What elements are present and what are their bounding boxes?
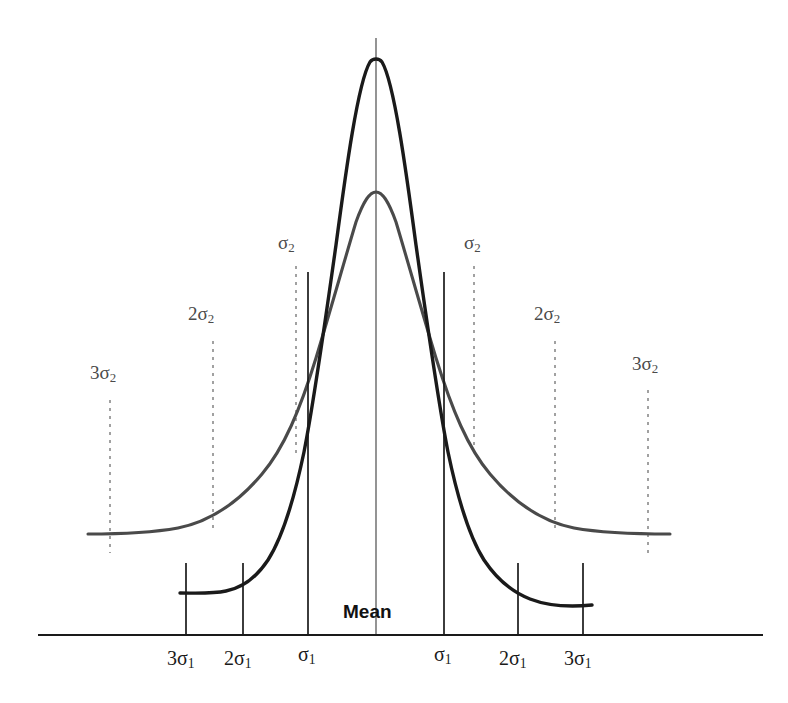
axis-label-text: 3σ [564,647,585,669]
distribution-plot-svg [0,0,788,703]
sigma2-label-sigma2-left: σ2 [278,233,295,255]
axis-label-3sigma1-right: 3σ1 [564,648,592,671]
sigma2-label-2sigma2-left: 2σ2 [188,304,214,326]
narrow-distribution-curve [180,59,592,606]
sigma2-label-2sigma2-right: 2σ2 [534,304,560,326]
axis-label-text: 3σ [167,647,188,669]
axis-label-2sigma1-right: 2σ1 [499,648,527,671]
axis-label-text: 2σ [224,647,245,669]
axis-label-subscript: 1 [309,652,316,667]
axis-label-text: σ [298,643,309,665]
sigma2-label-text: 3σ [90,362,110,383]
sigma2-label-subscript: 2 [110,370,116,385]
sigma2-label-text: 3σ [632,353,652,374]
axis-label-text: 2σ [499,647,520,669]
axis-label-3sigma1-left: 3σ1 [167,648,195,671]
sigma2-label-text: σ [278,232,288,253]
sigma2-label-3sigma2-left: 3σ2 [90,363,116,385]
axis-label-sigma1-right: σ1 [434,644,452,667]
axis-label-sigma1-left: σ1 [298,644,316,667]
axis-label-text: σ [434,643,445,665]
axis-label-2sigma1-left: 2σ1 [224,648,252,671]
sigma2-label-subscript: 2 [652,361,658,376]
sigma2-label-text: 2σ [534,303,554,324]
mean-label: Mean [343,602,392,621]
sigma2-label-text: 2σ [188,303,208,324]
normal-distribution-figure: Mean 3σ2 2σ2 σ2 σ2 2σ2 3σ2 3σ1 2σ1 σ1 σ1… [0,0,788,703]
sigma2-label-subscript: 2 [554,311,560,326]
sigma2-label-text: σ [464,232,474,253]
axis-label-subscript: 1 [585,656,592,671]
sigma2-label-subscript: 2 [208,311,214,326]
sigma2-label-subscript: 2 [474,240,480,255]
sigma1-marker-group [186,272,583,635]
sigma2-label-3sigma2-right: 3σ2 [632,354,658,376]
wide-distribution-curve [88,192,670,534]
axis-label-subscript: 1 [188,656,195,671]
axis-label-subscript: 1 [245,656,252,671]
sigma2-label-subscript: 2 [288,240,294,255]
axis-label-subscript: 1 [520,656,527,671]
axis-label-subscript: 1 [445,652,452,667]
sigma2-label-sigma2-right: σ2 [464,233,481,255]
